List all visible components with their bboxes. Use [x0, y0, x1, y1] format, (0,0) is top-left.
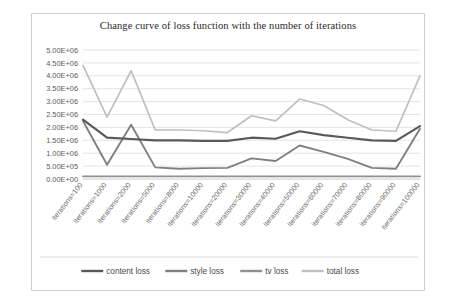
line-chart-plot: 5.00E+064.50E+064.00E+063.50E+063.00E+06… [32, 14, 426, 292]
y-axis-tick-label: 1.00E+06 [46, 149, 78, 158]
y-axis-tick-label: 0.00E+00 [46, 175, 78, 184]
legend-label: content loss [106, 267, 150, 276]
legend-item-style-loss[interactable]: style loss [165, 267, 224, 276]
y-axis-tick-label: 1.50E+06 [46, 136, 78, 145]
y-axis-tick-label: 2.50E+06 [46, 110, 78, 119]
legend-label: tv loss [265, 267, 288, 276]
y-axis-tick-label: 4.50E+06 [46, 59, 78, 68]
y-axis-tick-label: 4.00E+06 [46, 71, 78, 80]
y-axis-tick-label: 3.00E+06 [46, 97, 78, 106]
legend-label: style loss [190, 267, 224, 276]
legend-item-tv-loss[interactable]: tv loss [240, 267, 288, 276]
y-axis-tick-label: 5.00E+06 [46, 46, 78, 55]
chart-container: Change curve of loss function with the n… [31, 13, 425, 291]
legend-label: total loss [327, 267, 359, 276]
y-axis-tick-label: 3.50E+06 [46, 84, 78, 93]
y-axis-tick-label: 5.00E+05 [46, 162, 78, 171]
y-axis-tick-label: 2.00E+06 [46, 123, 78, 132]
legend-item-total-loss[interactable]: total loss [302, 267, 359, 276]
legend-item-content-loss[interactable]: content loss [81, 267, 150, 276]
